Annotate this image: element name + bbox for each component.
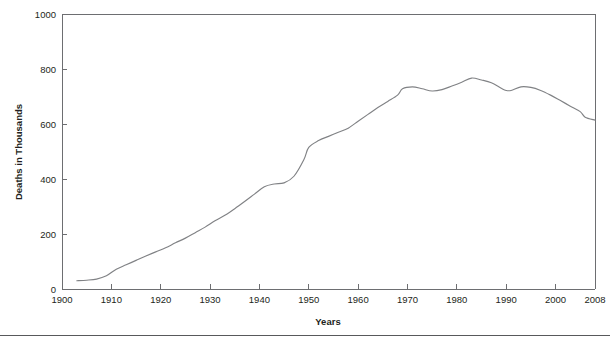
x-tick-label: 1910 bbox=[101, 294, 122, 305]
x-tick-group: 1900191019201930194019501960197019801990… bbox=[51, 284, 605, 305]
x-tick-label: 2000 bbox=[545, 294, 566, 305]
line-chart: 02004006008001000 1900191019201930194019… bbox=[0, 0, 610, 338]
y-tick-label: 0 bbox=[51, 284, 56, 295]
x-tick-label: 1970 bbox=[397, 294, 418, 305]
y-tick-label: 200 bbox=[40, 229, 56, 240]
data-series-line bbox=[77, 78, 595, 281]
x-tick-label: 1960 bbox=[348, 294, 369, 305]
y-tick-label: 400 bbox=[40, 174, 56, 185]
axes bbox=[62, 14, 595, 289]
x-tick-label: 2008 bbox=[584, 294, 605, 305]
x-tick-label: 1920 bbox=[150, 294, 171, 305]
x-tick-label: 1900 bbox=[51, 294, 72, 305]
x-axis-title: Years bbox=[315, 316, 340, 327]
x-tick-label: 1940 bbox=[249, 294, 270, 305]
x-tick-label: 1930 bbox=[199, 294, 220, 305]
x-tick-label: 1950 bbox=[298, 294, 319, 305]
y-tick-label: 1000 bbox=[35, 9, 56, 20]
y-tick-label: 800 bbox=[40, 64, 56, 75]
x-tick-label: 1980 bbox=[446, 294, 467, 305]
y-axis-title: Deaths in Thousands bbox=[13, 104, 24, 200]
x-tick-label: 1990 bbox=[496, 294, 517, 305]
footer-divider bbox=[0, 335, 610, 336]
y-tick-label: 600 bbox=[40, 119, 56, 130]
chart-figure: 02004006008001000 1900191019201930194019… bbox=[0, 0, 610, 338]
